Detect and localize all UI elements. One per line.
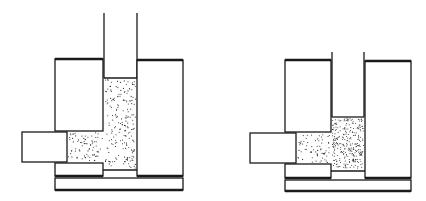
powder-particle: [106, 134, 107, 135]
powder-particle: [119, 96, 120, 97]
powder-particle: [360, 141, 361, 142]
powder-particle: [360, 146, 361, 147]
powder-particle: [337, 148, 338, 149]
powder-particle: [107, 80, 108, 81]
powder-particle: [72, 133, 73, 134]
powder-particle: [95, 132, 96, 133]
powder-particle: [297, 157, 298, 158]
powder-particle: [123, 88, 124, 89]
powder-particle: [301, 151, 302, 152]
powder-particle: [343, 154, 344, 155]
powder-particle: [316, 161, 317, 162]
powder-particle: [111, 143, 112, 144]
powder-particle: [83, 138, 84, 139]
powder-particle: [317, 146, 318, 147]
powder-particle: [125, 121, 126, 122]
powder-particle: [111, 133, 112, 134]
powder-particle: [361, 153, 362, 154]
powder-particle: [335, 119, 336, 120]
powder-particle: [126, 118, 127, 119]
powder-particle: [82, 145, 83, 146]
powder-particle: [127, 126, 128, 127]
powder-particle: [81, 136, 82, 137]
powder-particle: [114, 98, 115, 99]
diagram-stage: [0, 0, 426, 201]
powder-particle: [77, 158, 78, 159]
powder-particle: [94, 160, 95, 161]
powder-particle: [96, 141, 97, 142]
powder-particle: [310, 152, 311, 153]
powder-particle: [336, 124, 337, 125]
powder-particle: [326, 160, 327, 161]
powder-particle: [73, 133, 74, 134]
powder-particle: [349, 159, 350, 160]
powder-particle: [356, 144, 357, 145]
powder-particle: [112, 144, 113, 145]
powder-particle: [107, 89, 108, 90]
powder-particle: [127, 160, 128, 161]
powder-particle: [129, 100, 130, 101]
powder-particle: [93, 147, 94, 148]
powder-particle: [116, 86, 117, 87]
powder-particle: [335, 139, 336, 140]
powder-particle: [325, 152, 326, 153]
powder-particle: [332, 135, 333, 136]
powder-particle: [332, 120, 333, 121]
powder-particle: [337, 163, 338, 164]
powder-particle: [112, 131, 113, 132]
powder-particle: [322, 153, 323, 154]
powder-particle: [346, 167, 347, 168]
powder-particle: [317, 150, 318, 151]
powder-particle: [355, 123, 356, 124]
powder-particle: [122, 143, 123, 144]
powder-particle: [348, 148, 349, 149]
powder-particle: [107, 115, 108, 116]
powder-particle: [357, 167, 358, 168]
powder-particle: [345, 166, 346, 167]
powder-particle: [357, 161, 358, 162]
powder-particle: [362, 139, 363, 140]
powder-particle: [339, 166, 340, 167]
powder-particle: [352, 123, 353, 124]
powder-particle: [105, 79, 106, 80]
powder-particle: [349, 131, 350, 132]
powder-particle: [360, 149, 361, 150]
powder-particle: [75, 135, 76, 136]
powder-particle: [134, 84, 135, 85]
powder-particle: [347, 129, 348, 130]
powder-particle: [359, 140, 360, 141]
powder-particle: [69, 137, 70, 138]
powder-particle: [348, 149, 349, 150]
powder-particle: [346, 133, 347, 134]
powder-particle: [346, 143, 347, 144]
powder-particle: [340, 120, 341, 121]
powder-particle: [342, 144, 343, 145]
powder-particle: [312, 162, 313, 163]
powder-particle: [88, 155, 89, 156]
powder-particle: [338, 132, 339, 133]
powder-particle: [346, 120, 347, 121]
powder-particle: [111, 139, 112, 140]
powder-particle: [322, 157, 323, 158]
powder-particle: [356, 146, 357, 147]
powder-particle: [98, 133, 99, 134]
powder-particle: [124, 142, 125, 143]
powder-particle: [354, 156, 355, 157]
powder-particle: [337, 166, 338, 167]
powder-particle: [358, 151, 359, 152]
powder-particle: [116, 142, 117, 143]
powder-particle: [336, 127, 337, 128]
powder-particle: [96, 145, 97, 146]
powder-particle: [110, 105, 111, 106]
powder-particle: [108, 161, 109, 162]
powder-particle: [363, 145, 364, 146]
powder-particle: [133, 124, 134, 125]
powder-particle: [333, 129, 334, 130]
powder-particle: [334, 153, 335, 154]
powder-particle: [360, 137, 361, 138]
powder-particle: [351, 148, 352, 149]
powder-particle: [334, 138, 335, 139]
powder-particle: [105, 101, 106, 102]
powder-particle: [135, 99, 136, 100]
powder-particle: [86, 143, 87, 144]
